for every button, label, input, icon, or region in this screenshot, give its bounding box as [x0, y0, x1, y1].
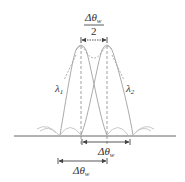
arrow1-label: Δθw	[97, 145, 115, 159]
fraction-numerator: Δθw	[84, 11, 102, 25]
lambda1-label: λ1	[54, 82, 63, 96]
diffraction-diagram: Δθw 2 λ1 λ2 Δθw Δθw	[0, 0, 185, 182]
side-lobes	[37, 127, 154, 135]
arrow2-label: Δθw	[72, 164, 90, 178]
lambda2-label: λ2	[125, 82, 135, 96]
fraction-denominator: 2	[91, 25, 97, 37]
